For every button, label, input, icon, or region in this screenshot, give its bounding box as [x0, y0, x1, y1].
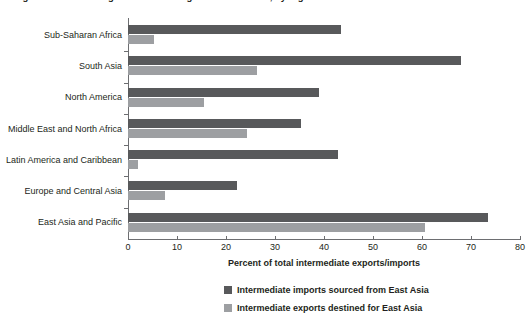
- x-axis-tick: [520, 236, 521, 240]
- y-axis-tick: [124, 114, 128, 115]
- y-axis-tick-label: South Asia: [0, 61, 122, 72]
- legend-item: Intermediate imports sourced from East A…: [224, 283, 524, 297]
- x-axis-tick-label: 50: [358, 242, 388, 252]
- x-axis-tick: [177, 236, 178, 240]
- x-axis-tick: [471, 236, 472, 240]
- x-axis-tick-label: 10: [162, 242, 192, 252]
- y-axis-tick-label: Middle East and North Africa: [0, 124, 122, 135]
- x-axis-tick: [275, 236, 276, 240]
- legend-swatch-imports-icon: [224, 286, 232, 294]
- y-axis-tick: [124, 51, 128, 52]
- x-axis-tick-label: 60: [407, 242, 437, 252]
- figure-container: Figure: Intermediate goods trade linkage…: [0, 0, 531, 326]
- x-axis-tick: [128, 236, 129, 240]
- y-axis-tick: [124, 145, 128, 146]
- x-axis-tick: [422, 236, 423, 240]
- y-axis-tick: [124, 176, 128, 177]
- y-axis-tick-label: North America: [0, 92, 122, 103]
- y-axis-labels: Sub-Saharan AfricaSouth AsiaNorth Americ…: [0, 0, 531, 326]
- y-axis-tick-label: Sub-Saharan Africa: [0, 30, 122, 41]
- legend-item: Intermediate exports destined for East A…: [224, 301, 524, 315]
- y-axis-tick-label: East Asia and Pacific: [0, 217, 122, 228]
- x-axis-title: Percent of total intermediate exports/im…: [128, 258, 520, 268]
- x-axis-tick-label: 40: [309, 242, 339, 252]
- y-axis-tick: [124, 83, 128, 84]
- legend-label: Intermediate imports sourced from East A…: [237, 285, 429, 295]
- x-axis-tick-label: 0: [113, 242, 143, 252]
- chart-legend: Intermediate imports sourced from East A…: [224, 283, 524, 319]
- x-axis-tick: [226, 236, 227, 240]
- x-axis-tick: [373, 236, 374, 240]
- x-axis-tick-label: 30: [260, 242, 290, 252]
- x-axis-tick: [324, 236, 325, 240]
- y-axis-tick-label: Latin America and Caribbean: [0, 155, 122, 166]
- y-axis-tick: [124, 208, 128, 209]
- x-axis-tick-label: 80: [505, 242, 531, 252]
- legend-label: Intermediate exports destined for East A…: [237, 303, 422, 313]
- x-axis-tick-label: 20: [211, 242, 241, 252]
- y-axis-tick-label: Europe and Central Asia: [0, 186, 122, 197]
- legend-swatch-exports-icon: [224, 304, 232, 312]
- x-axis-tick-label: 70: [456, 242, 486, 252]
